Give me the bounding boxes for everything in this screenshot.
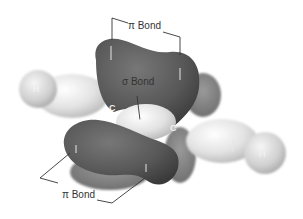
orbital-diagram: π Bond σ Bond π Bond C C H H H (0, 0, 303, 219)
right-ch-bond (186, 119, 286, 174)
left-ch-bond (19, 70, 108, 118)
ethylene-orbital-illustration (0, 0, 303, 219)
leader-pi-top-right (163, 32, 180, 55)
carbon-right-label: C (170, 124, 177, 133)
hydrogen-right-label: H (259, 150, 266, 159)
hydrogen-left-label: H (33, 85, 40, 94)
leader-pi-top-left (112, 18, 128, 40)
pi-bond-top-label: π Bond (128, 21, 161, 31)
hydrogen-center-label: H (136, 116, 143, 125)
carbon-left-label: C (109, 104, 116, 113)
pi-bond-bottom-label: π Bond (62, 190, 95, 200)
leader-pi-bottom-left (40, 153, 70, 183)
sigma-bond-label: σ Bond (122, 77, 154, 87)
